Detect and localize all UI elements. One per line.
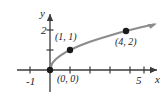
point-label-4-2: (4, 2) xyxy=(115,37,137,47)
x-axis-label: x xyxy=(155,74,160,85)
point-marker-1-1 xyxy=(67,47,73,53)
y-axis-label: y xyxy=(40,8,45,19)
y-axis-arrowhead xyxy=(47,14,53,21)
point-marker-4-2 xyxy=(123,28,129,34)
x-tick-label-neg1: -1 xyxy=(26,76,35,87)
x-tick-label-5: 5 xyxy=(136,75,142,86)
y-tick-label-2: 2 xyxy=(41,25,47,36)
graph-figure: y x 2 -1 5 (1, 1) (0, 0) (4, 2) xyxy=(0,0,167,98)
curve-arrowhead xyxy=(148,24,158,29)
point-marker-0-0 xyxy=(47,67,53,73)
point-label-1-1: (1, 1) xyxy=(55,32,77,42)
point-label-0-0: (0, 0) xyxy=(57,74,79,84)
